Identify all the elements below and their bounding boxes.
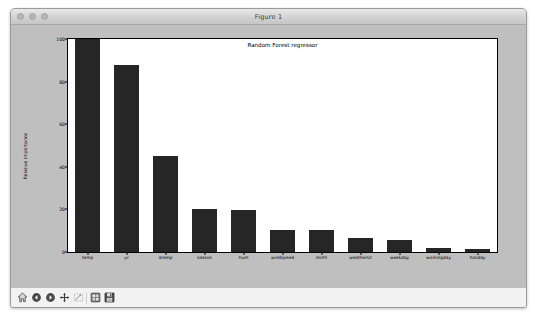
y-tick-label: 60 <box>59 122 65 127</box>
x-tick-mark <box>243 252 244 255</box>
x-tick-mark <box>204 252 205 255</box>
figure-window: Figure 1 Relative Importance Random Fore… <box>10 8 527 308</box>
y-tick-mark <box>65 252 68 253</box>
bar <box>192 209 216 252</box>
window-controls <box>17 13 48 20</box>
zoom-button[interactable] <box>41 13 48 20</box>
toolbar-separator <box>86 292 87 304</box>
bar <box>348 238 372 252</box>
bar <box>231 210 255 252</box>
bar <box>114 65 138 252</box>
x-tick-label: weathersit <box>349 255 372 260</box>
x-tick-label: weekday <box>390 255 409 260</box>
navigation-toolbar[interactable] <box>11 287 526 307</box>
home-icon[interactable] <box>15 291 29 305</box>
back-arrow-icon[interactable] <box>29 291 43 305</box>
configure-subplots-icon[interactable] <box>88 291 102 305</box>
x-tick-mark <box>165 252 166 255</box>
x-tick-mark <box>360 252 361 255</box>
x-tick-label: holiday <box>470 255 486 260</box>
x-tick-mark <box>126 252 127 255</box>
x-tick-mark <box>282 252 283 255</box>
y-tick-mark <box>65 166 68 167</box>
x-tick-label: yr <box>124 255 128 260</box>
minimize-button[interactable] <box>29 13 36 20</box>
y-tick-mark <box>65 209 68 210</box>
y-tick-mark <box>65 81 68 82</box>
y-tick-label: 20 <box>59 207 65 212</box>
figure-canvas[interactable]: Relative Importance Random Forest regres… <box>11 25 526 287</box>
x-tick-label: atemp <box>159 255 173 260</box>
x-tick-mark <box>87 252 88 255</box>
x-tick-label: temp <box>82 255 93 260</box>
x-tick-label: season <box>197 255 212 260</box>
x-tick-label: windspeed <box>271 255 294 260</box>
zoom-rectangle-icon[interactable] <box>71 291 85 305</box>
x-tick-mark <box>438 252 439 255</box>
bar <box>465 249 489 252</box>
close-button[interactable] <box>17 13 24 20</box>
forward-arrow-icon[interactable] <box>43 291 57 305</box>
y-tick-mark <box>65 39 68 40</box>
bar <box>309 230 333 252</box>
window-titlebar[interactable]: Figure 1 <box>11 9 526 25</box>
bar <box>426 248 450 252</box>
y-tick-label: 40 <box>59 164 65 169</box>
y-axis-label: Relative Importance <box>23 133 28 179</box>
x-tick-label: hum <box>239 255 249 260</box>
y-tick-label: 80 <box>59 79 65 84</box>
bar <box>75 39 99 252</box>
y-tick-label: 100 <box>56 37 65 42</box>
y-tick-mark <box>65 124 68 125</box>
y-tick-label: 0 <box>62 250 65 255</box>
bar <box>387 240 411 252</box>
pan-move-icon[interactable] <box>57 291 71 305</box>
plot-axes[interactable]: Random Forest regressor 020406080100 tem… <box>67 38 498 253</box>
window-title: Figure 1 <box>11 13 526 21</box>
x-tick-mark <box>477 252 478 255</box>
save-figure-icon[interactable] <box>102 291 116 305</box>
x-tick-label: mnth <box>316 255 327 260</box>
x-tick-mark <box>321 252 322 255</box>
chart-title: Random Forest regressor <box>68 42 497 48</box>
x-tick-mark <box>399 252 400 255</box>
x-tick-label: workingday <box>426 255 451 260</box>
bar <box>153 156 177 252</box>
bar <box>270 230 294 252</box>
